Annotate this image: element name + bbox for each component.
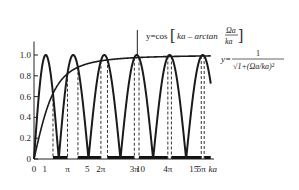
x-tick-label: π (65, 164, 70, 174)
curve1-prefix: y=cos (146, 31, 168, 41)
curve1-frac-num: Ωa (226, 26, 236, 35)
curve1-bracket-body: ka – arctan (177, 31, 218, 41)
x-tick-label: 5π (197, 164, 207, 174)
curve1-frac-den: ka (225, 37, 233, 46)
band-structure-chart: 00.20.40.60.81.0 01π52π3π104π155π y=cos … (0, 0, 299, 190)
y-tick-label: 0.4 (20, 112, 32, 122)
series-cos-curve (34, 55, 211, 159)
y-tick-label: 0.6 (20, 92, 32, 102)
curve2-prefix: y= (220, 54, 231, 64)
svg-text:y=cos: y=cos (146, 31, 168, 41)
y-tick-label: 0.8 (20, 71, 32, 81)
x-axis-label: ka (209, 164, 218, 174)
x-ticks: 01π52π3π104π155π (32, 164, 206, 174)
right-bracket: ] (238, 27, 243, 44)
curve2-frac-den: √1+(Ωa/ka)² (233, 62, 275, 71)
y-tick-label: 0 (27, 154, 32, 164)
x-tick-label: 4π (163, 164, 173, 174)
y-tick-label: 0.2 (20, 133, 31, 143)
x-tick-label: 10 (136, 164, 146, 174)
y-tick-label: 1.0 (20, 50, 32, 60)
curve2-frac-num: 1 (256, 49, 260, 58)
x-tick-label: 5 (85, 164, 90, 174)
curve1-label: y=cos [ ka – arctan Ωa ka ] (146, 26, 243, 46)
x-tick-label: 0 (32, 164, 37, 174)
x-tick-label: 2π (96, 164, 106, 174)
curve2-label: y= 1 √1+(Ωa/ka)² (220, 49, 284, 71)
left-bracket: [ (170, 27, 175, 44)
x-tick-label: 1 (42, 164, 47, 174)
